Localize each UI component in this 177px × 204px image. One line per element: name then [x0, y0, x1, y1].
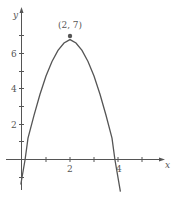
y-axis-label: y — [12, 10, 19, 20]
parabola-chart: 6 4 2 2 4 y x (2, 7) — [0, 0, 177, 204]
y-axis-arrow-icon — [20, 7, 24, 13]
vertex-label: (2, 7) — [58, 20, 82, 30]
y-tick-label-6: 6 — [11, 49, 17, 59]
x-axis-label: x — [165, 160, 170, 170]
y-tick-label-2: 2 — [11, 120, 17, 130]
vertex-point — [68, 34, 72, 38]
x-tick-label-2: 2 — [67, 164, 73, 174]
y-tick-label-4: 4 — [11, 84, 17, 94]
